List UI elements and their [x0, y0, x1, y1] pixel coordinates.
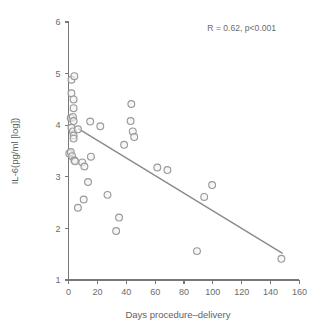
x-tick-label-20: 20 — [92, 287, 102, 297]
data-point — [70, 96, 77, 103]
chart-canvas: 123456020406080100120140160Days procedur… — [0, 0, 327, 335]
y-tick-label-4: 4 — [56, 120, 61, 130]
data-point — [116, 214, 123, 221]
data-point — [85, 179, 92, 186]
data-point — [113, 228, 120, 235]
x-axis-title: Days procedure–delivery — [125, 309, 230, 320]
x-tick-label-60: 60 — [150, 287, 160, 297]
data-point — [71, 73, 78, 80]
y-tick-label-2: 2 — [56, 224, 61, 234]
correlation-annotation: R = 0.62, p<0.001 — [207, 23, 276, 33]
y-tick-label-1: 1 — [56, 275, 61, 285]
x-tick-label-100: 100 — [205, 287, 220, 297]
data-point — [87, 118, 94, 125]
data-point — [104, 191, 111, 198]
y-tick-label-6: 6 — [56, 17, 61, 27]
data-point — [128, 101, 135, 108]
x-tick-label-120: 120 — [234, 287, 249, 297]
data-point — [209, 182, 216, 189]
x-tick-label-80: 80 — [179, 287, 189, 297]
data-point — [75, 204, 82, 211]
data-point — [154, 164, 161, 171]
y-tick-label-3: 3 — [56, 172, 61, 182]
data-point — [70, 135, 77, 142]
data-point — [121, 141, 128, 148]
data-point — [70, 105, 77, 112]
data-point — [194, 248, 201, 255]
data-point — [278, 255, 285, 262]
data-point — [201, 194, 208, 201]
y-tick-label-5: 5 — [56, 69, 61, 79]
y-axis-title: IL-6(pg/ml [log]) — [9, 118, 20, 185]
x-tick-label-160: 160 — [292, 287, 307, 297]
data-point — [80, 196, 87, 203]
data-point — [72, 158, 79, 165]
series-0 — [66, 73, 285, 262]
data-point — [88, 153, 95, 160]
data-point — [131, 134, 138, 141]
data-point — [70, 118, 77, 125]
data-point — [75, 126, 82, 133]
regression-line — [79, 129, 282, 253]
scatter-plot-figure: 123456020406080100120140160Days procedur… — [0, 0, 327, 335]
x-tick-label-140: 140 — [263, 287, 278, 297]
data-point — [164, 167, 171, 174]
data-point — [127, 118, 134, 125]
x-tick-label-40: 40 — [121, 287, 131, 297]
data-point — [81, 163, 88, 170]
data-point — [97, 123, 104, 130]
x-tick-label-0: 0 — [66, 287, 71, 297]
